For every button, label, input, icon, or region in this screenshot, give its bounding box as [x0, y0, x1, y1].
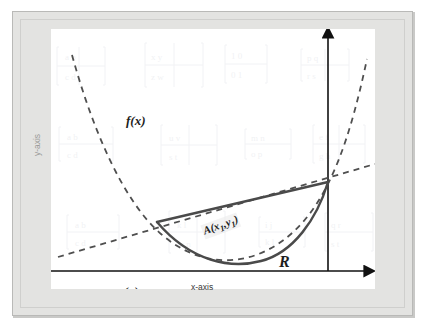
point-a-name: A	[201, 223, 212, 237]
point-a-y-sub: 1	[230, 219, 237, 230]
curve-label-g: g(x)	[117, 284, 139, 289]
point-a-x-sub: 1	[219, 223, 226, 234]
region-upper-boundary	[157, 182, 328, 222]
plot-drawing	[51, 29, 375, 289]
region-label: R	[279, 253, 290, 271]
region-lower-boundary	[157, 182, 328, 264]
x-axis-label: x-axis	[191, 282, 213, 292]
curve-label-f: f(x)	[126, 113, 146, 129]
figure-page: a bc d x yz w 1 00 1 p qr s a bc d u vs …	[0, 0, 429, 331]
plot-canvas: a bc d x yz w 1 00 1 p qr s a bc d u vs …	[51, 29, 375, 289]
y-axis-label: y-axis	[32, 134, 42, 156]
